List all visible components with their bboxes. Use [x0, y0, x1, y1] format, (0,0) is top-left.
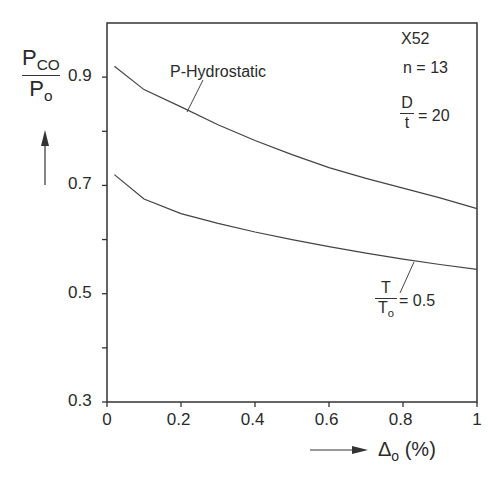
curve-label-hydrostatic: P-Hydrostatic: [170, 63, 266, 81]
leader-line-hydrostatic: [187, 80, 203, 112]
plot-frame: [107, 23, 477, 402]
n-annotation: n = 13: [403, 59, 448, 77]
leader-line-t-ratio: [400, 262, 414, 293]
x-tick-label: 0.2: [167, 410, 191, 430]
x-tick-label: 0: [102, 410, 111, 430]
y-tick-label: 0.3: [68, 391, 92, 411]
y-label-sub-co: CO: [37, 56, 60, 73]
x-tick-label: 0.4: [241, 410, 265, 430]
t-ratio-fraction: T To: [375, 280, 397, 320]
t-den: T: [378, 299, 388, 316]
t-den-sub: o: [388, 307, 394, 319]
y-label-den-sub: o: [44, 87, 53, 104]
x-label-unit: (%): [399, 438, 436, 460]
y-axis-arrow-head-icon: [41, 130, 49, 146]
dt-fraction: D t: [400, 95, 414, 132]
y-tick-label: 0.7: [68, 174, 92, 194]
dt-value: = 20: [418, 107, 450, 125]
x-tick-label: 0.8: [389, 410, 413, 430]
x-axis-arrow-head-icon: [352, 446, 368, 454]
y-axis-label: PCO Po: [22, 46, 60, 104]
x-tick-label: 0.6: [315, 410, 339, 430]
dt-den: t: [400, 115, 414, 132]
x-label-sub: o: [391, 448, 399, 464]
x-tick-label: 1: [472, 410, 481, 430]
curves: [114, 66, 477, 269]
series-line-1: [114, 175, 477, 270]
y-tick-label: 0.9: [68, 66, 92, 86]
dt-num: D: [400, 95, 414, 112]
x-label-delta: Δ: [378, 438, 391, 460]
y-label-den: P: [29, 76, 44, 101]
series-line-0: [114, 66, 477, 208]
y-tick-label: 0.5: [68, 283, 92, 303]
x-axis-label: Δo (%): [378, 438, 436, 464]
y-label-p: P: [22, 45, 37, 70]
material-annotation: X52: [401, 30, 429, 48]
t-num: T: [375, 280, 397, 297]
t-ratio-value: = 0.5: [399, 292, 435, 310]
